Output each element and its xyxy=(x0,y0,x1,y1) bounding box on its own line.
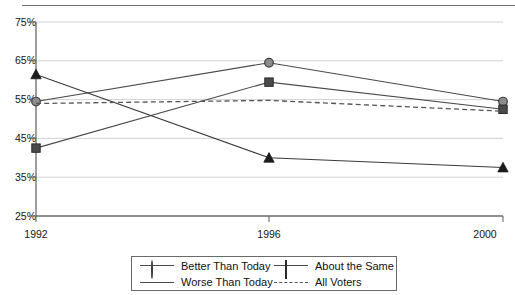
data-point-marker xyxy=(32,97,41,106)
data-point-marker xyxy=(265,78,273,86)
legend-label: Better Than Today xyxy=(181,260,271,272)
circle-marker-icon xyxy=(140,260,174,272)
data-point-marker xyxy=(265,58,274,67)
axis-lines xyxy=(30,22,503,222)
data-point-marker xyxy=(499,105,507,113)
chart-legend: Better Than Today About the Same Worse T… xyxy=(131,256,397,291)
square-marker-icon xyxy=(274,260,308,272)
series-line xyxy=(36,100,503,111)
plot-area xyxy=(0,0,515,250)
data-point-marker xyxy=(32,144,40,152)
series-about-the-same xyxy=(32,78,507,152)
legend-label: About the Same xyxy=(315,260,394,272)
legend-label: Worse Than Today xyxy=(181,276,273,288)
data-point-marker xyxy=(31,69,41,79)
legend-item-worse-than-today[interactable]: Worse Than Today xyxy=(132,274,266,290)
legend-item-about-the-same[interactable]: About the Same xyxy=(266,257,398,274)
dashed-line-icon xyxy=(274,276,308,288)
data-point-marker xyxy=(499,97,508,106)
data-point-marker xyxy=(264,153,274,163)
chart-figure: 75% 65% 55% 45% 35% 25% 1992 1996 2000 xyxy=(0,0,515,295)
series-layer xyxy=(31,58,508,171)
legend-item-better-than-today[interactable]: Better Than Today xyxy=(132,257,266,274)
legend-label: All Voters xyxy=(315,276,361,288)
triangle-marker-icon xyxy=(140,276,174,288)
series-all-voters xyxy=(36,100,503,111)
legend-item-all-voters[interactable]: All Voters xyxy=(266,274,398,290)
